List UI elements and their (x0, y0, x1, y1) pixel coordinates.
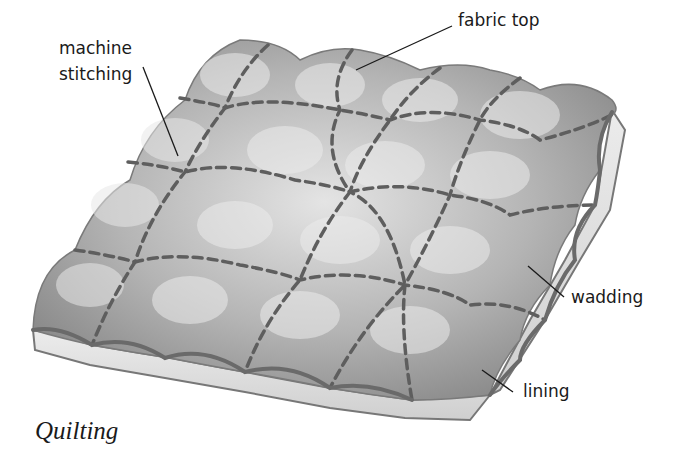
label-stitching: stitching (59, 63, 132, 85)
label-wadding: wadding (571, 286, 643, 308)
label-machine: machine (59, 37, 132, 59)
diagram-title: Quilting (35, 417, 118, 445)
quilting-diagram: machine stitching fabric top wadding lin… (0, 0, 682, 452)
label-fabric-top: fabric top (458, 9, 540, 31)
label-lining: lining (523, 380, 570, 402)
